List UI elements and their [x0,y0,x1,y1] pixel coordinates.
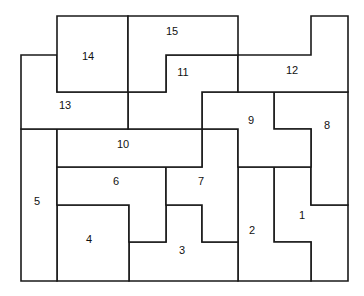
region-4 [57,205,129,281]
region-label-1: 1 [299,209,305,221]
region-10 [57,129,202,167]
region-label-11: 11 [177,66,188,78]
regions-layer [21,16,348,281]
region-label-12: 12 [286,64,298,76]
region-label-3: 3 [179,244,185,256]
region-label-13: 13 [59,99,71,111]
region-puzzle-diagram: 123456789101112131415 [0,0,364,296]
region-12 [238,16,348,92]
region-label-6: 6 [113,175,119,187]
region-label-2: 2 [249,224,255,236]
region-label-8: 8 [324,119,330,131]
region-label-7: 7 [198,175,204,187]
region-label-10: 10 [117,138,129,150]
region-label-4: 4 [86,233,92,245]
region-label-5: 5 [34,195,40,207]
region-label-14: 14 [82,50,94,62]
region-label-9: 9 [248,114,254,126]
region-label-15: 15 [166,25,178,37]
